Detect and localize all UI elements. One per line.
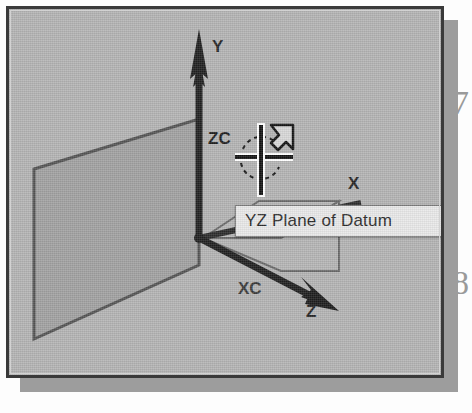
- crosshair-cursor: [235, 119, 307, 197]
- x-axis-label: X: [348, 174, 359, 194]
- selection-tooltip: YZ Plane of Datum: [235, 205, 444, 237]
- datum-csys-scene: [9, 9, 441, 375]
- origin-point: [194, 233, 204, 243]
- y-axis-label: Y: [212, 37, 223, 57]
- cad-viewport-figure: Y X Z ZC XC YZ Plane of Datum: [6, 6, 444, 378]
- cursor-pointer-arrow-icon: [271, 125, 293, 150]
- wcs-xc-label: XC: [238, 279, 262, 299]
- yz-plane[interactable]: [34, 119, 199, 339]
- scanned-page: 7 8: [0, 0, 472, 413]
- z-axis-label: Z: [306, 302, 316, 322]
- graphics-viewport[interactable]: Y X Z ZC XC YZ Plane of Datum: [9, 9, 441, 375]
- wcs-zc-label: ZC: [208, 129, 231, 149]
- tooltip-text: YZ Plane of Datum: [245, 211, 392, 231]
